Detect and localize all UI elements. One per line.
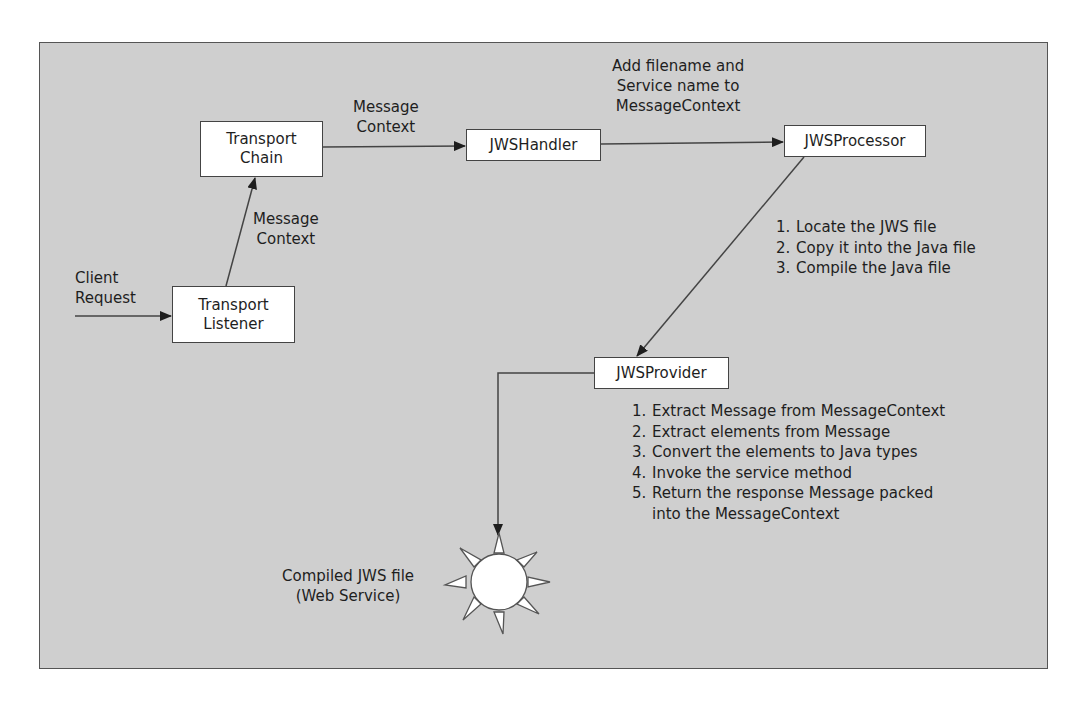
sun-icon [445,533,550,634]
node-jws-processor-label: JWSProcessor [804,132,905,151]
edge-provider-to-compiled [498,373,594,535]
label-compiled-jws-line1: Compiled JWS file [282,566,414,586]
label-client-request: Client Request [75,268,136,308]
node-transport-listener-line2: Listener [203,315,263,334]
node-jws-handler: JWSHandler [466,129,601,161]
label-handler-to-processor-line3: MessageContext [612,96,744,116]
processor-steps-list: 1.Locate the JWS file 2.Copy it into the… [776,217,976,279]
provider-step: 2.Extract elements from Message [632,422,945,443]
provider-step: 3.Convert the elements to Java types [632,442,945,463]
node-transport-chain-line2: Chain [240,149,283,168]
label-handler-to-processor-line1: Add filename and [612,56,744,76]
node-transport-listener: Transport Listener [172,286,295,343]
connector-layer [0,0,1087,704]
label-client-request-line1: Client [75,268,136,288]
node-transport-chain: Transport Chain [200,121,323,177]
provider-step-continuation: into the MessageContext [632,504,945,525]
label-compiled-jws-line2: (Web Service) [282,586,414,606]
node-jws-handler-label: JWSHandler [490,136,578,155]
label-chain-to-handler: Message Context [353,97,419,137]
node-transport-listener-line1: Transport [198,296,268,315]
label-listener-to-chain-line1: Message [253,209,319,229]
label-listener-to-chain-line2: Context [253,229,319,249]
label-compiled-jws: Compiled JWS file (Web Service) [282,566,414,606]
node-jws-processor: JWSProcessor [784,125,926,157]
provider-step: 4.Invoke the service method [632,463,945,484]
edge-listener-to-chain [226,178,255,286]
label-chain-to-handler-line1: Message [353,97,419,117]
label-chain-to-handler-line2: Context [353,117,419,137]
edge-chain-to-handler [323,146,465,147]
edge-handler-to-processor [601,142,783,144]
provider-step: 1.Extract Message from MessageContext [632,401,945,422]
processor-step: 1.Locate the JWS file [776,217,976,238]
provider-steps-list: 1.Extract Message from MessageContext 2.… [632,401,945,524]
processor-step: 3.Compile the Java file [776,258,976,279]
label-handler-to-processor-line2: Service name to [612,76,744,96]
node-jws-provider-label: JWSProvider [616,364,707,383]
node-jws-provider: JWSProvider [594,357,729,389]
label-handler-to-processor: Add filename and Service name to Message… [612,56,744,116]
label-client-request-line2: Request [75,288,136,308]
provider-step: 5.Return the response Message packed [632,483,945,504]
node-transport-chain-line1: Transport [226,130,296,149]
label-listener-to-chain: Message Context [253,209,319,249]
processor-step: 2.Copy it into the Java file [776,238,976,259]
